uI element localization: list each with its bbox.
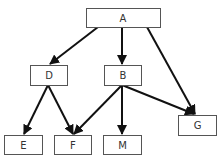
edge-d-to-f <box>48 85 73 134</box>
node-a-label: A <box>120 13 127 24</box>
edge-b-to-f <box>74 85 122 134</box>
graph-canvas: A D B G E F M <box>0 0 222 159</box>
node-g-label: G <box>194 120 202 131</box>
node-e: E <box>5 136 43 155</box>
node-b-label: B <box>120 70 127 81</box>
node-e-label: E <box>20 140 26 151</box>
node-d: D <box>31 66 68 86</box>
node-g: G <box>179 116 217 136</box>
edge-b-to-g <box>122 85 194 114</box>
node-d-label: D <box>45 70 53 81</box>
edge-d-to-e <box>24 85 48 134</box>
edge-a-to-d <box>50 27 98 64</box>
edge-a-to-g <box>147 27 195 114</box>
node-f: F <box>55 136 92 155</box>
node-a: A <box>87 9 161 28</box>
node-m-label: M <box>118 140 127 151</box>
node-b: B <box>105 66 142 86</box>
node-m: M <box>104 136 142 155</box>
node-f-label: F <box>70 140 76 151</box>
